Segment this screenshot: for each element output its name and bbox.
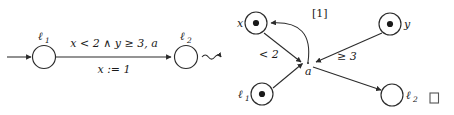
automaton-state-l2-label: ℓ [180,30,185,43]
petri-transition-a-label: a [305,65,312,78]
petri-arc-a-to-x-weight-label: [1] [312,7,328,20]
petri-place-l2-label: ℓ [406,89,411,102]
petri-place-y-label: y [403,18,411,31]
automaton-state-l1-label: ℓ [38,30,43,43]
figure-canvas: ℓ 1 ℓ 2 x < 2 ∧ y ≥ 3, a x := 1 x y ℓ 1 … [0,0,454,115]
figure-text-layer: ℓ 1 ℓ 2 x < 2 ∧ y ≥ 3, a x := 1 x y ℓ 1 … [0,0,454,115]
petri-arc-y-to-a-label: ≥ 3 [337,50,357,63]
automaton-state-l1-sublabel: 1 [45,36,50,45]
petri-place-l2-sublabel: 2 [412,95,418,104]
automaton-edge-update-label: x := 1 [97,63,130,76]
petri-arc-x-to-a-label: < 2 [259,48,279,61]
petri-place-x-label: x [237,17,244,30]
petri-place-l1-sublabel: 1 [245,94,250,103]
automaton-state-l2-sublabel: 2 [186,36,192,45]
automaton-edge-guard-label: x < 2 ∧ y ≥ 3, a [70,37,157,50]
petri-place-l1-label: ℓ [238,88,243,101]
